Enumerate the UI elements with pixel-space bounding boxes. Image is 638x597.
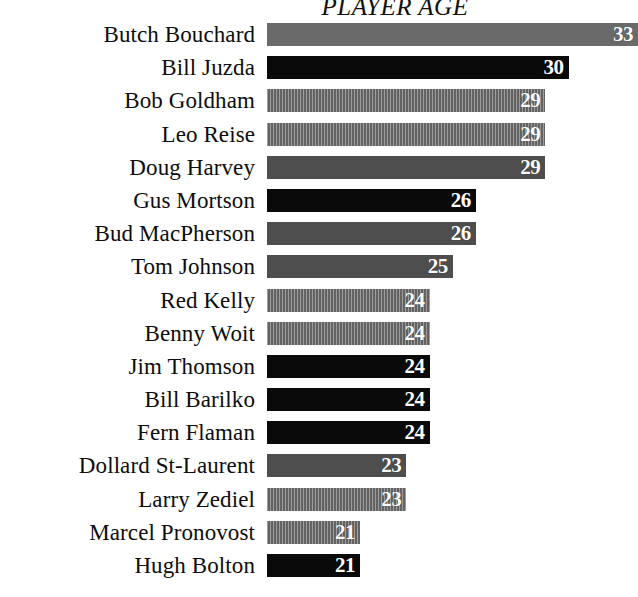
bar: 29	[267, 89, 545, 112]
bar-value-label: 23	[381, 489, 406, 510]
bar-value-label: 21	[335, 522, 360, 543]
bar: 24	[267, 421, 430, 444]
bar-value-label: 30	[544, 57, 569, 78]
bar-row-label: Bob Goldham	[124, 88, 255, 114]
bar-row-label: Marcel Pronovost	[89, 520, 255, 546]
bar: 24	[267, 388, 430, 411]
bar-value-label: 25	[428, 256, 453, 277]
bar-value-label: 24	[405, 290, 430, 311]
bar-track: 24	[267, 322, 638, 345]
bar-value-label: 29	[520, 157, 545, 178]
bar: 21	[267, 554, 360, 577]
bar-row: Bob Goldham29	[0, 88, 638, 121]
bar: 24	[267, 289, 430, 312]
bar: 33	[267, 23, 638, 46]
bar-track: 24	[267, 289, 638, 312]
bar-row-label: Bud MacPherson	[95, 221, 255, 247]
bar-row: Fern Flaman24	[0, 420, 638, 453]
bar-track: 24	[267, 355, 638, 378]
bar-row-label: Jim Thomson	[128, 354, 255, 380]
bar-value-label: 29	[520, 124, 545, 145]
bar-track: 21	[267, 521, 638, 544]
bar: 30	[267, 56, 569, 79]
bar-row: Butch Bouchard33	[0, 22, 638, 55]
bar: 29	[267, 156, 545, 179]
bar-value-label: 26	[451, 223, 476, 244]
bar-track: 29	[267, 123, 638, 146]
bar-row: Gus Mortson26	[0, 188, 638, 221]
bar-value-label: 26	[451, 190, 476, 211]
chart-title: PLAYER AGE	[265, 0, 525, 19]
bar-row: Doug Harvey29	[0, 155, 638, 188]
bar-track: 29	[267, 89, 638, 112]
bar-row: Bill Barilko24	[0, 387, 638, 420]
bar-row: Leo Reise29	[0, 122, 638, 155]
bar-row: Bill Juzda30	[0, 55, 638, 88]
bar-track: 21	[267, 554, 638, 577]
bar-track: 30	[267, 56, 638, 79]
bar: 26	[267, 189, 476, 212]
bar-track: 26	[267, 222, 638, 245]
bar-row-label: Gus Mortson	[133, 188, 255, 214]
bar: 24	[267, 355, 430, 378]
bar-track: 29	[267, 156, 638, 179]
bar: 21	[267, 521, 360, 544]
bar: 29	[267, 123, 545, 146]
bar-value-label: 24	[405, 323, 430, 344]
bar-track: 23	[267, 488, 638, 511]
bar-track: 24	[267, 421, 638, 444]
bar-value-label: 29	[520, 90, 545, 111]
bar-track: 33	[267, 23, 638, 46]
bar-row-label: Larry Zediel	[138, 487, 255, 513]
bar-row: Dollard St-Laurent23	[0, 453, 638, 486]
bar-row-label: Fern Flaman	[137, 420, 255, 446]
bar-value-label: 24	[405, 356, 430, 377]
bar-row-label: Doug Harvey	[129, 155, 255, 181]
bar-row: Marcel Pronovost21	[0, 520, 638, 553]
bar: 25	[267, 255, 453, 278]
bar-track: 25	[267, 255, 638, 278]
bar-row: Benny Woit24	[0, 321, 638, 354]
bar-row: Bud MacPherson26	[0, 221, 638, 254]
bar: 23	[267, 454, 406, 477]
bar-value-label: 24	[405, 422, 430, 443]
bar-track: 26	[267, 189, 638, 212]
bar-rows-container: Butch Bouchard33Bill Juzda30Bob Goldham2…	[0, 22, 638, 586]
bar-row: Jim Thomson24	[0, 354, 638, 387]
bar: 24	[267, 322, 430, 345]
player-age-bar-chart: PLAYER AGE Butch Bouchard33Bill Juzda30B…	[0, 0, 638, 597]
bar-row-label: Red Kelly	[160, 288, 255, 314]
bar-row-label: Benny Woit	[144, 321, 255, 347]
bar-track: 24	[267, 388, 638, 411]
bar-value-label: 21	[335, 555, 360, 576]
bar-row: Red Kelly24	[0, 288, 638, 321]
bar-row-label: Bill Barilko	[145, 387, 255, 413]
bar-row-label: Hugh Bolton	[134, 553, 255, 579]
bar-value-label: 23	[381, 455, 406, 476]
bar-row-label: Bill Juzda	[161, 55, 255, 81]
bar-row-label: Butch Bouchard	[103, 22, 255, 48]
bar-track: 23	[267, 454, 638, 477]
bar-row-label: Tom Johnson	[131, 254, 255, 280]
bar-row: Tom Johnson25	[0, 254, 638, 287]
bar-row-label: Leo Reise	[161, 122, 255, 148]
bar-row: Larry Zediel23	[0, 487, 638, 520]
bar-value-label: 24	[405, 389, 430, 410]
bar-value-label: 33	[613, 24, 638, 45]
bar-row-label: Dollard St-Laurent	[79, 453, 255, 479]
bar: 23	[267, 488, 406, 511]
bar: 26	[267, 222, 476, 245]
bar-row: Hugh Bolton21	[0, 553, 638, 586]
